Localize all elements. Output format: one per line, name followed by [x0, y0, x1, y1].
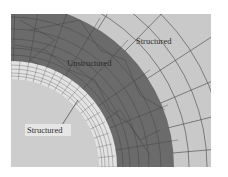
mesh-diagram: Structured Unstructured Structured — [0, 0, 228, 177]
outer-structured-label: Structured — [136, 36, 172, 46]
mesh-frame — [0, 0, 228, 177]
inner-structured-label: Structured — [27, 125, 63, 135]
unstructured-label: Unstructured — [67, 58, 112, 68]
